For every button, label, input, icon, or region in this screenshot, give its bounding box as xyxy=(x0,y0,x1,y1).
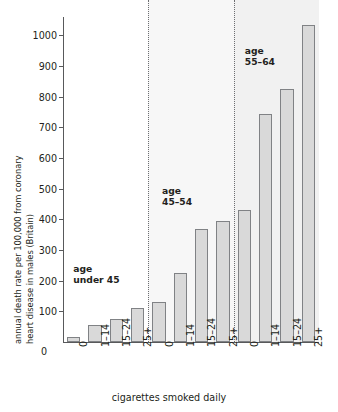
y-axis-title-line-2: heart disease in males (Britain) xyxy=(25,214,37,344)
bar xyxy=(302,25,316,342)
x-tick-label: 1–14 xyxy=(185,324,196,347)
y-axis-origin-label: 0 xyxy=(41,346,47,357)
group-annotation-3: age55–64 xyxy=(245,45,275,67)
y-tick-mark xyxy=(59,281,63,282)
y-tick-label: 500 xyxy=(39,183,57,194)
plot-area: 1002003004005006007008009001000 ageunder… xyxy=(63,17,319,342)
x-tick-label: 15–24 xyxy=(206,318,217,347)
chart-figure: annual death rate per 100,000 from coron… xyxy=(0,0,338,412)
annotation-line-1: age xyxy=(162,185,192,196)
y-tick-label: 400 xyxy=(39,214,57,225)
group-divider-2 xyxy=(234,0,235,342)
y-tick-label: 1000 xyxy=(33,30,57,41)
y-tick-mark xyxy=(59,158,63,159)
group-annotation-2: age45–54 xyxy=(162,185,192,207)
x-tick-label: 0 xyxy=(249,341,260,347)
x-tick-label: 15–24 xyxy=(292,318,303,347)
annotation-line-2: 45–54 xyxy=(162,196,192,207)
y-tick-label: 900 xyxy=(39,61,57,72)
y-tick-label: 100 xyxy=(39,306,57,317)
y-tick-mark xyxy=(59,127,63,128)
y-axis-title-line-1: annual death rate per 100,000 from coron… xyxy=(13,155,25,344)
group-divider-1 xyxy=(148,0,149,342)
bar xyxy=(216,221,230,342)
annotation-line-2: 55–64 xyxy=(245,56,275,67)
x-tick-label: 1–14 xyxy=(270,324,281,347)
y-tick-mark xyxy=(59,219,63,220)
y-tick-mark xyxy=(59,250,63,251)
y-tick-mark xyxy=(59,311,63,312)
annotation-line-1: age xyxy=(245,45,275,56)
y-tick-mark xyxy=(59,97,63,98)
bar xyxy=(280,89,294,342)
x-tick-label: 0 xyxy=(78,341,89,347)
y-tick-mark xyxy=(59,189,63,190)
bar xyxy=(238,210,252,342)
x-tick-label: 1–14 xyxy=(100,324,111,347)
x-tick-label: 0 xyxy=(164,341,175,347)
x-tick-label: 25+ xyxy=(142,327,153,347)
bar xyxy=(152,302,166,342)
bar xyxy=(259,114,273,342)
y-tick-label: 700 xyxy=(39,122,57,133)
group-annotation-1: ageunder 45 xyxy=(73,263,119,285)
x-tick-label: 25+ xyxy=(228,327,239,347)
annotation-line-1: age xyxy=(73,263,119,274)
y-tick-label: 200 xyxy=(39,275,57,286)
x-axis-title: cigarettes smoked daily xyxy=(0,392,338,403)
y-tick-mark xyxy=(59,66,63,67)
y-tick-mark xyxy=(59,35,63,36)
x-tick-label: 15–24 xyxy=(121,318,132,347)
y-tick-label: 300 xyxy=(39,245,57,256)
y-tick-label: 600 xyxy=(39,153,57,164)
x-tick-label: 25+ xyxy=(313,327,324,347)
y-axis-title: annual death rate per 100,000 from coron… xyxy=(0,0,36,360)
y-tick-label: 800 xyxy=(39,91,57,102)
annotation-line-2: under 45 xyxy=(73,274,119,285)
